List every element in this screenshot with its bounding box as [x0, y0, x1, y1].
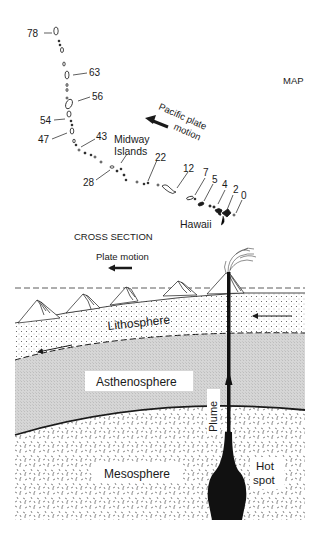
age-4: 4: [222, 179, 228, 190]
hawaii-label: Hawaii: [180, 218, 212, 230]
age-12: 12: [183, 163, 195, 174]
age-labels: 78 63 56 54 47 43 28 22 12 7 5 4 2 0: [27, 28, 247, 201]
age-22: 22: [155, 152, 167, 163]
age-28: 28: [83, 177, 95, 188]
map-section: MAP: [27, 27, 304, 230]
eruption-smoke: [225, 248, 257, 273]
pacific-plate-arrow: [145, 115, 168, 127]
age-7: 7: [203, 167, 209, 178]
hawaii-hotspot-diagram: MAP: [0, 0, 327, 534]
midway-label-line1: Midway: [114, 133, 150, 145]
age-78: 78: [27, 28, 39, 39]
age-63: 63: [89, 67, 101, 78]
asthenosphere-label: Asthenosphere: [96, 375, 177, 389]
age-5: 5: [212, 174, 218, 185]
hot-spot-label-line2: spot: [253, 474, 276, 486]
map-title: MAP: [283, 75, 304, 86]
plate-motion-label: Plate motion: [96, 251, 149, 262]
plume-label: Plume: [207, 401, 219, 432]
midway-label-line2: Islands: [114, 145, 147, 157]
age-43: 43: [96, 131, 108, 142]
mesosphere-label: Mesosphere: [104, 467, 170, 481]
plate-motion-arrow-icon: [108, 265, 115, 272]
age-47: 47: [38, 134, 50, 145]
cross-section: CROSS SECTION Plate motion: [15, 231, 305, 520]
age-54: 54: [40, 115, 52, 126]
age-56: 56: [92, 91, 104, 102]
cross-section-title: CROSS SECTION: [74, 231, 153, 242]
age-0: 0: [241, 190, 247, 201]
hot-spot-label-line1: Hot: [256, 460, 275, 472]
age-2: 2: [233, 184, 239, 195]
